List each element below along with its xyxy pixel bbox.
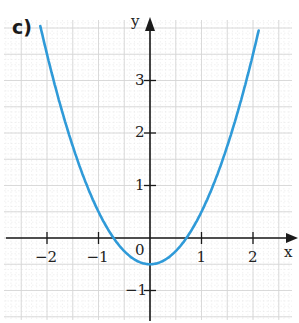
x-axis-label: x [284, 245, 292, 260]
chart-plot [0, 0, 299, 323]
x-tick-label: 1 [197, 250, 207, 265]
y-tick-label: 1 [135, 178, 145, 193]
y-tick-label: −1 [125, 283, 147, 298]
part-label: c) [12, 16, 32, 38]
y-tick-label: 3 [135, 73, 145, 88]
x-tick-label: −1 [87, 250, 109, 265]
x-tick-label: −2 [35, 250, 57, 265]
origin-label: 0 [135, 243, 145, 258]
y-tick-label: 2 [135, 125, 145, 140]
x-tick-label: 2 [248, 250, 258, 265]
y-axis-label: y [131, 14, 139, 29]
